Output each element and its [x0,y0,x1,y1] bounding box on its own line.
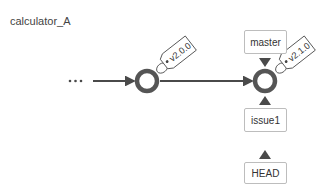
history-ellipsis [69,80,83,83]
commit-node-1[interactable] [137,71,157,91]
tag-v2-0-0[interactable]: v2.0.0 [151,36,197,77]
head-ref[interactable]: HEAD [244,162,287,184]
commit-graph: v2.0.0 v2.1.0 [0,0,333,186]
commit-node-2[interactable] [255,71,275,91]
head-pointer-icon [259,150,271,159]
master-pointer-icon [259,58,271,67]
issue1-pointer-icon [259,96,271,105]
branch-issue1[interactable]: issue1 [244,108,287,132]
branch-master[interactable]: master [244,30,287,54]
